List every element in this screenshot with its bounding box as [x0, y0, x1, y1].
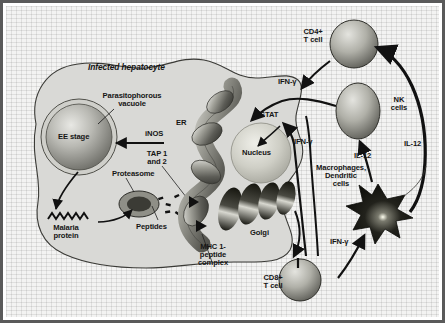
label-cd4-t-cell: CD4+ T cell — [294, 28, 332, 44]
label-il12-to-nk: IL-12 — [354, 152, 371, 160]
label-infected-hepatocyte: Infected hepatocyte — [88, 63, 165, 72]
diagram-graphics — [6, 6, 439, 317]
ifn-gamma-cd4-arrow — [302, 61, 330, 88]
label-ee-stage: EE stage — [58, 133, 89, 141]
label-stat: STAT — [260, 111, 278, 119]
label-inos: iNOS — [145, 130, 163, 138]
label-cd8-t-cell: CD8+ T cell — [254, 274, 292, 290]
nk-cell-body — [336, 83, 380, 139]
label-il12-to-cd4: IL-12 — [404, 140, 421, 148]
golgi-to-cd8-arrow — [294, 211, 299, 256]
label-ifn-gamma-stat: IFN-γ — [294, 138, 313, 146]
label-ifn-gamma-cd4: IFN-γ — [278, 78, 297, 86]
macrophage-dendritic-cell — [346, 184, 413, 244]
label-nucleus: Nucleus — [242, 149, 271, 157]
label-proteasome: Proteasome — [112, 170, 154, 178]
label-tap-1-and-2: TAP 1 and 2 — [136, 150, 178, 166]
il12-to-cd4-arrow — [378, 48, 425, 212]
figure-container: Infected hepatocyte Parasitophorous vacu… — [0, 0, 445, 323]
label-mhc-peptide-complex: MHC 1- peptide complex — [188, 243, 238, 267]
proteasome-core — [127, 197, 151, 212]
label-nk-cells: NK cells — [384, 96, 414, 112]
cd4-t-cell-body — [330, 20, 378, 68]
label-macrophages-dendritic-cells: Macrophages, Dendritic cells — [310, 164, 372, 188]
label-ifn-gamma-cd8-to-macrophage: IFN-γ — [330, 238, 349, 246]
label-malaria-protein: Malaria protein — [42, 224, 90, 240]
label-er: ER — [176, 119, 186, 127]
label-golgi: Golgi — [250, 229, 269, 237]
label-parasitophorous-vacuole: Parasitophorous vacuole — [98, 92, 166, 108]
figure-canvas: Infected hepatocyte Parasitophorous vacu… — [6, 6, 439, 317]
label-peptides: Peptides — [136, 223, 167, 231]
